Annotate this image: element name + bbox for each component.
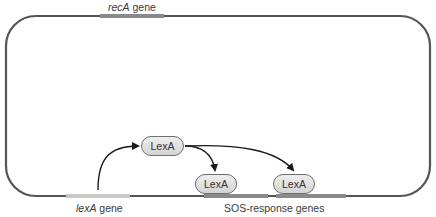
lexa-gene-suffix: gene [96,202,122,214]
reca-gene-label: recA gene [108,1,156,13]
lexa-protein-bound-2: LexA [273,174,315,194]
reca-gene-segment [100,14,164,18]
lexa-protein-bound-1: LexA [195,174,237,194]
reca-gene-name: recA [108,1,130,13]
chromosome-loop [6,16,430,196]
sos-gene-segment-2 [276,194,346,198]
lexa-protein-free: LexA [141,136,184,156]
lexa-gene-segment [66,194,130,198]
binding-arrow-1 [185,146,215,170]
expression-arrow [98,146,138,190]
sos-genes-label: SOS-response genes [224,202,324,214]
lexa-gene-label: lexA gene [76,202,123,214]
sos-gene-segment-1 [204,194,268,198]
reca-gene-suffix: gene [130,1,156,13]
lexa-gene-name: lexA [76,202,96,214]
